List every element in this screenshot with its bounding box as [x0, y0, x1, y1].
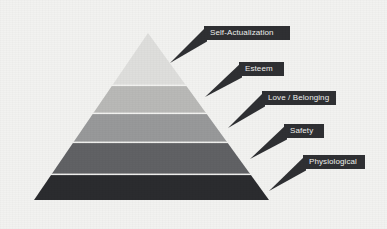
tier-band-physiological: [0, 175, 387, 201]
pyramid-tier-group: [0, 33, 387, 201]
label-love-belonging-text: Love / Belonging: [268, 94, 329, 102]
pointer-self-actualization: [170, 26, 207, 63]
label-physiological-text: Physiological: [309, 158, 357, 166]
tier-divider-2: [0, 113, 387, 115]
pointer-esteem: [205, 62, 242, 97]
tier-divider-1: [0, 85, 387, 87]
label-self-actualization-text: Self-Actualization: [210, 29, 274, 37]
label-esteem-text: Esteem: [245, 65, 273, 73]
tier-band-love-belonging: [0, 114, 387, 142]
diagram-canvas: Self-Actualization Esteem Love / Belongi…: [0, 0, 387, 229]
tier-divider-3: [0, 142, 387, 144]
tier-divider-4: [0, 174, 387, 176]
pointer-physiological: [269, 155, 306, 191]
label-esteem[interactable]: Esteem: [239, 62, 284, 76]
label-self-actualization[interactable]: Self-Actualization: [204, 26, 290, 40]
label-physiological[interactable]: Physiological: [303, 155, 365, 169]
pointer-safety: [250, 124, 287, 159]
label-safety-text: Safety: [290, 127, 313, 135]
pyramid-silhouette: [0, 0, 387, 229]
pointer-love-belonging: [228, 91, 265, 128]
label-love-belonging[interactable]: Love / Belonging: [262, 91, 336, 105]
label-safety[interactable]: Safety: [284, 124, 324, 138]
